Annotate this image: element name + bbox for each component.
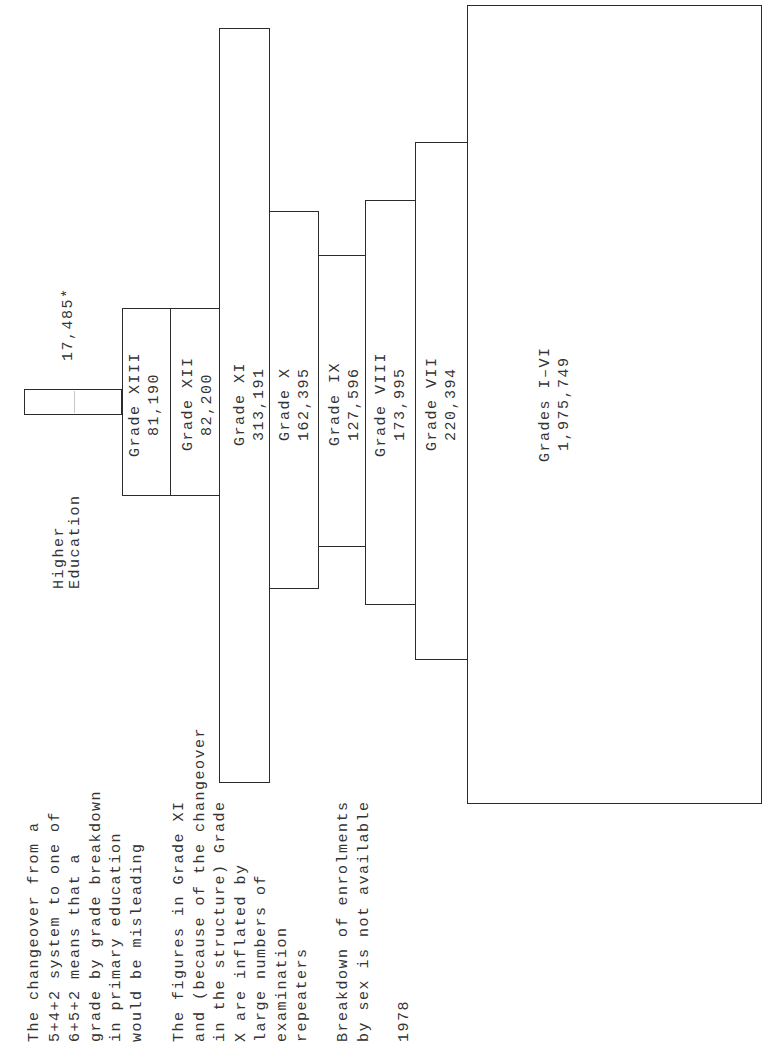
grade-value: 81,190 bbox=[145, 300, 164, 508]
label-grade-vii: Grade VII 220,394 bbox=[423, 300, 461, 508]
grade-value: 220,394 bbox=[442, 300, 461, 508]
note-line: 6+5+2 means that a bbox=[66, 690, 87, 1042]
note-line: by sex is not available bbox=[355, 690, 376, 1042]
higher-education-label-line: Education bbox=[68, 470, 84, 589]
label-grade-ix: Grade IX 127,596 bbox=[326, 300, 364, 508]
grade-value: 82,200 bbox=[198, 300, 217, 508]
note-repeaters: The figures in Grade XI and (because of … bbox=[170, 690, 314, 1042]
note-line: Breakdown of enrolments bbox=[334, 690, 355, 1042]
note-line: grade by grade breakdown bbox=[87, 690, 108, 1042]
note-line: 5+4+2 system to one of bbox=[46, 690, 67, 1042]
bar-higher-education bbox=[24, 389, 122, 415]
note-changeover: The changeover from a 5+4+2 system to on… bbox=[25, 690, 148, 1042]
note-line: examination bbox=[273, 690, 294, 1042]
note-line: and (because of the changeover bbox=[191, 690, 212, 1042]
label-grade-xi: Grade XI 313,191 bbox=[231, 300, 269, 508]
note-line: The figures in Grade XI bbox=[170, 690, 191, 1042]
enrolment-chart: 17,485* Higher Education Grade XIII 81,1… bbox=[0, 0, 764, 1062]
grade-value: 1,975,749 bbox=[555, 300, 574, 508]
grade-name: Grade VII bbox=[423, 300, 442, 508]
label-grades-i-vi: Grades I–VI 1,975,749 bbox=[536, 300, 574, 508]
note-line: large numbers of bbox=[252, 690, 273, 1042]
higher-education-label: Higher Education bbox=[52, 470, 84, 589]
grade-name: Grade XIII bbox=[126, 300, 145, 508]
grade-value: 127,596 bbox=[345, 300, 364, 508]
grade-value: 313,191 bbox=[250, 300, 269, 508]
note-line: in primary education bbox=[107, 690, 128, 1042]
grade-value: 162,395 bbox=[295, 300, 314, 508]
higher-education-divider bbox=[74, 391, 75, 413]
grade-name: Grade X bbox=[276, 300, 295, 508]
grade-name: Grades I–VI bbox=[536, 300, 555, 508]
higher-education-value: 17,485* bbox=[60, 270, 78, 361]
note-line: repeaters bbox=[293, 690, 314, 1042]
bar-grades-i-vi bbox=[467, 5, 762, 804]
note-sex-breakdown: Breakdown of enrolments by sex is not av… bbox=[334, 690, 375, 1042]
grade-name: Grade XI bbox=[231, 300, 250, 508]
year-label: 1978 bbox=[395, 690, 416, 1042]
grade-name: Grade XII bbox=[179, 300, 198, 508]
higher-education-label-line: Higher bbox=[52, 470, 68, 589]
note-line: X are inflated by bbox=[232, 690, 253, 1042]
note-line: The changeover from a bbox=[25, 690, 46, 1042]
note-line: in the structure) Grade bbox=[211, 690, 232, 1042]
grade-value: 173,995 bbox=[391, 300, 410, 508]
label-grade-viii: Grade VIII 173,995 bbox=[372, 300, 410, 508]
label-grade-xii: Grade XII 82,200 bbox=[179, 300, 217, 508]
label-grade-xiii: Grade XIII 81,190 bbox=[126, 300, 164, 508]
note-line: would be misleading bbox=[128, 690, 149, 1042]
grade-name: Grade VIII bbox=[372, 300, 391, 508]
grade-name: Grade IX bbox=[326, 300, 345, 508]
label-grade-x: Grade X 162,395 bbox=[276, 300, 314, 508]
